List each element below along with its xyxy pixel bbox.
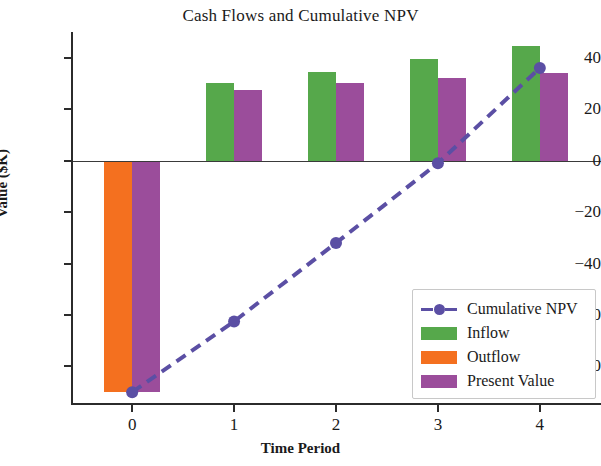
x-tick-mark <box>335 405 337 412</box>
chart-title: Cash Flows and Cumulative NPV <box>0 6 601 26</box>
bar-present-value-p2 <box>336 83 364 160</box>
legend-label: Present Value <box>467 372 554 390</box>
legend-label: Inflow <box>467 324 510 342</box>
chart-legend: Cumulative NPVInflowOutflowPresent Value <box>412 289 596 399</box>
bar-inflow-p3 <box>410 59 438 161</box>
y-tick-mark <box>64 263 71 265</box>
bar-present-value-p4 <box>540 73 568 160</box>
x-tick-mark <box>233 405 235 412</box>
y-tick-mark <box>64 365 71 367</box>
legend-label: Cumulative NPV <box>467 300 578 318</box>
x-tick-label: 4 <box>536 415 545 435</box>
x-tick-label: 3 <box>434 415 443 435</box>
x-axis-label: Time Period <box>0 440 601 457</box>
bar-inflow-p2 <box>308 72 336 161</box>
y-tick-mark <box>64 211 71 213</box>
bar-outflow-p0 <box>104 161 132 393</box>
bar-inflow-p4 <box>512 46 540 160</box>
zero-baseline <box>71 161 601 162</box>
y-tick-mark <box>64 314 71 316</box>
legend-item-present-value[interactable]: Present Value <box>421 369 587 393</box>
x-tick-label: 0 <box>128 415 137 435</box>
chart-canvas: Cash Flows and Cumulative NPV Cumulative… <box>0 0 601 466</box>
y-axis-label: Value ($K) <box>0 149 11 218</box>
bar-present-value-p1 <box>234 90 262 161</box>
legend-item-inflow[interactable]: Inflow <box>421 321 587 345</box>
x-tick-label: 1 <box>230 415 239 435</box>
x-tick-mark <box>437 405 439 412</box>
bar-present-value-p0 <box>132 161 160 393</box>
y-tick-mark <box>64 108 71 110</box>
legend-item-cumulative-npv[interactable]: Cumulative NPV <box>421 297 587 321</box>
x-tick-mark <box>539 405 541 412</box>
legend-line-marker-icon <box>421 302 457 316</box>
legend-swatch-icon <box>421 375 457 388</box>
legend-swatch-icon <box>421 327 457 340</box>
legend-label: Outflow <box>467 348 520 366</box>
legend-item-outflow[interactable]: Outflow <box>421 345 587 369</box>
y-tick-mark <box>64 160 71 162</box>
x-tick-label: 2 <box>332 415 341 435</box>
y-tick-mark <box>64 57 71 59</box>
x-tick-mark <box>131 405 133 412</box>
bar-present-value-p3 <box>438 78 466 160</box>
bar-inflow-p1 <box>206 83 234 160</box>
legend-swatch-icon <box>421 351 457 364</box>
